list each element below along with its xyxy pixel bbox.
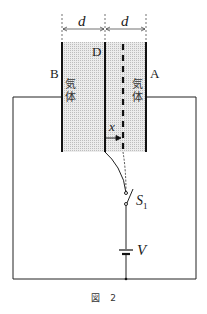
plate-label-b: B [50, 67, 59, 80]
battery-label-v: V [137, 243, 146, 258]
plate-d-lead-displaced [123, 152, 126, 193]
junction-dot [125, 278, 128, 281]
gas-label-left-char1: 気 [64, 78, 76, 91]
switch-label-main: S [136, 193, 143, 208]
switch-s1 [125, 189, 134, 206]
gap-label-left: d [78, 14, 86, 29]
battery [119, 250, 133, 254]
capacitor-circuit-diagram [0, 0, 207, 314]
plate-label-d: D [92, 45, 101, 58]
gas-label-right: 気 体 [131, 78, 143, 104]
plate-d-lead [105, 152, 126, 193]
switch-label: S1 [136, 194, 148, 211]
switch-label-sub: 1 [143, 201, 148, 211]
plate-label-a: A [150, 67, 159, 80]
caption-number: 2 [110, 293, 116, 303]
dimension-guides [62, 14, 146, 42]
gas-label-left-char2: 体 [64, 91, 76, 104]
dimension-arrows [63, 27, 145, 31]
gap-label-right: d [121, 14, 129, 29]
gas-label-right-char2: 体 [131, 91, 143, 104]
figure-caption: 図2 [0, 291, 207, 304]
gas-label-right-char1: 気 [131, 78, 143, 91]
caption-prefix: 図 [91, 293, 100, 303]
gas-label-left: 気 体 [64, 78, 76, 104]
displacement-label-x: x [109, 120, 115, 133]
